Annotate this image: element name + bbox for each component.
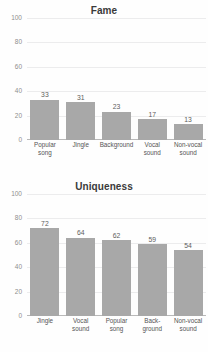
plot-wrap-uniqueness: 020406080100 7264625954 [0, 194, 208, 316]
y-axis-tick-label: 0 [0, 313, 22, 319]
bar-slot: 54 [174, 194, 203, 316]
y-axis-tick-label: 100 [0, 15, 22, 21]
plot-wrap-fame: 020406080100 3331231713 [0, 18, 208, 140]
bar [138, 119, 167, 140]
bar-slot: 13 [174, 18, 203, 140]
y-axis-tick-label: 40 [0, 264, 22, 270]
x-axis-category-label: Vocalsound [64, 317, 98, 347]
bar-slot: 72 [30, 194, 59, 316]
x-axis-category-label: Non-vocalsound [171, 141, 205, 171]
figure-root: Fame 020406080100 3331231713 Popularsong… [0, 0, 208, 352]
y-axis-tick-label: 20 [0, 113, 22, 119]
bar [66, 102, 95, 140]
x-axis-category-label: Jingle [64, 141, 98, 171]
x-axis-labels-fame: PopularsongJingleBackgroundVocalsoundNon… [27, 141, 206, 171]
bar [102, 112, 131, 140]
bar-value-label: 72 [41, 220, 49, 227]
x-axis-category-label: Popularsong [28, 141, 62, 171]
y-axis-tick-label: 60 [0, 240, 22, 246]
chart-title-fame: Fame [0, 0, 208, 18]
bar [102, 240, 131, 316]
bar-value-label: 17 [149, 111, 157, 118]
x-axis-category-label: Vocalsound [135, 141, 169, 171]
bar-slot: 33 [30, 18, 59, 140]
chart-uniqueness: Uniqueness 020406080100 7264625954 Jingl… [0, 176, 208, 352]
bar-value-label: 23 [113, 103, 121, 110]
bar-slot: 17 [138, 18, 167, 140]
x-axis-category-label: Background [99, 141, 133, 171]
bar [138, 244, 167, 316]
bar-slot: 64 [66, 194, 95, 316]
bar [66, 238, 95, 316]
y-axis-tick-label: 80 [0, 215, 22, 221]
bar-value-label: 33 [41, 91, 49, 98]
y-axis-tick-label: 40 [0, 88, 22, 94]
bar-value-label: 59 [149, 236, 157, 243]
bar-group-uniqueness: 7264625954 [27, 194, 206, 316]
chart-fame: Fame 020406080100 3331231713 Popularsong… [0, 0, 208, 176]
x-axis-category-label: Non-vocalsound [171, 317, 205, 347]
bar-slot: 59 [138, 194, 167, 316]
bar [174, 250, 203, 316]
bar-value-label: 62 [113, 232, 121, 239]
x-axis-labels-uniqueness: JingleVocalsoundPopularsongBack-groundNo… [27, 317, 206, 347]
bar-value-label: 13 [184, 116, 192, 123]
y-axis-tick-label: 100 [0, 191, 22, 197]
y-axis-tick-label: 80 [0, 39, 22, 45]
bar-slot: 62 [102, 194, 131, 316]
x-axis-category-label: Back-ground [135, 317, 169, 347]
x-axis-category-label: Jingle [28, 317, 62, 347]
bar-value-label: 31 [77, 94, 85, 101]
bar-slot: 23 [102, 18, 131, 140]
bar [30, 100, 59, 140]
y-axis-tick-label: 60 [0, 64, 22, 70]
bar-value-label: 64 [77, 229, 85, 236]
bar [174, 124, 203, 140]
chart-title-uniqueness: Uniqueness [0, 176, 208, 194]
bar-group-fame: 3331231713 [27, 18, 206, 140]
y-axis-tick-label: 20 [0, 289, 22, 295]
bar-slot: 31 [66, 18, 95, 140]
bar [30, 228, 59, 316]
x-axis-category-label: Popularsong [99, 317, 133, 347]
y-axis-tick-label: 0 [0, 137, 22, 143]
bar-value-label: 54 [184, 242, 192, 249]
